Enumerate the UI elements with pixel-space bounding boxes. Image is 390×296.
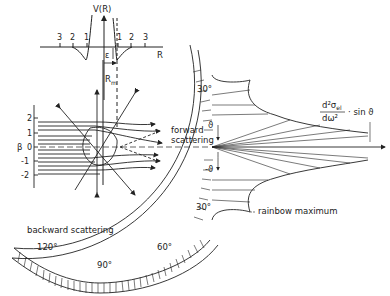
theta-label: ϑ — [208, 120, 213, 130]
svg-text:d²σel: d²σel — [322, 100, 342, 111]
arc-hatching — [18, 70, 213, 293]
backward-scattering-label: backward scattering — [27, 225, 114, 235]
tick-left-3: 3 — [57, 33, 62, 42]
tick-right-3: 3 — [143, 33, 148, 42]
r-axis-label: R — [157, 50, 163, 60]
angle-label-top-30: 30° — [197, 84, 212, 94]
neg-theta-label: -ϑ — [205, 164, 213, 174]
cross-section-formula: d²σel dω² · sin ϑ — [320, 100, 374, 123]
svg-text:dω²: dω² — [322, 113, 338, 123]
angle-label-60: 60° — [157, 242, 172, 252]
beta-label: β — [17, 142, 22, 152]
crossing-arrow-2 — [60, 108, 135, 195]
svg-text:· sin ϑ: · sin ϑ — [348, 107, 374, 117]
tick-left-2: 2 — [70, 33, 75, 42]
v-axis-label: V(R) — [93, 4, 111, 14]
tick-right-2: 2 — [129, 33, 134, 42]
angle-label-bottom-30: 30° — [196, 202, 211, 212]
rm-label: Rm — [105, 74, 117, 86]
beta-tick-0: 0 — [27, 143, 32, 152]
beta-tick-m2: -2 — [21, 171, 29, 180]
tick-left-1: 1 — [84, 33, 89, 42]
beta-tick-2: 2 — [27, 114, 32, 123]
angle-label-120: 120° — [37, 242, 57, 252]
beta-tick-m1: -1 — [21, 157, 29, 166]
rainbow-maximum-label: rainbow maximum — [258, 206, 338, 216]
epsilon-label: ε — [105, 51, 109, 60]
beta-tick-1: 1 — [27, 129, 32, 138]
cross-section-lobe — [212, 75, 385, 220]
crossing-arrow-1 — [75, 93, 135, 190]
incoming-trajectories — [38, 122, 100, 174]
tick-right-1: 1 — [117, 33, 122, 42]
angle-label-90: 90° — [97, 260, 112, 270]
scattering-diagram: V(R) R 3 2 1 1 2 3 ε Rm — [0, 0, 390, 296]
scattering-label: scattering — [171, 135, 214, 145]
